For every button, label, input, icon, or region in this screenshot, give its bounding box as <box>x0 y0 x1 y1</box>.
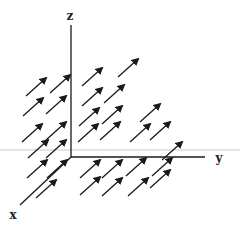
vector-arrow-icon <box>80 177 100 195</box>
vector-arrow-icon <box>26 78 46 96</box>
vector-arrow-icon <box>140 104 160 122</box>
vector-arrow-icon <box>118 59 138 77</box>
vector-arrow-icon <box>128 178 148 196</box>
x-axis-label: x <box>9 208 17 222</box>
vector-arrow-icon <box>22 124 42 142</box>
vector-arrow-icon <box>46 140 66 158</box>
vector-arrow-icon <box>46 96 66 114</box>
vector-arrow-icon <box>50 75 70 93</box>
vector-arrow-icon <box>102 178 122 196</box>
vector-arrow-icon <box>82 68 102 86</box>
vector-arrow-icon <box>27 160 47 178</box>
vector-arrow-icon <box>79 108 99 126</box>
z-axis-label: z <box>67 9 74 23</box>
vector-arrow-icon <box>126 158 146 176</box>
vector-arrow-icon <box>102 106 122 124</box>
vector-arrow-icon <box>104 85 124 103</box>
vector-arrow-icon <box>28 140 48 158</box>
vector-arrow-icon <box>150 122 170 140</box>
field-arrows <box>22 59 182 198</box>
vector-field-plot: z y x <box>0 0 240 232</box>
x-axis-line <box>20 157 71 205</box>
vector-arrow-icon <box>82 88 102 106</box>
vector-arrow-icon <box>78 124 98 142</box>
y-axis-label: y <box>215 151 224 165</box>
vector-arrow-icon <box>80 160 100 178</box>
vector-arrow-icon <box>150 170 170 188</box>
vector-arrow-icon <box>130 124 150 142</box>
vector-arrow-icon <box>47 160 67 178</box>
vector-arrow-icon <box>152 158 172 176</box>
vector-arrow-icon <box>23 98 43 116</box>
vector-arrow-icon <box>36 180 56 198</box>
vector-arrow-icon <box>102 160 122 178</box>
vector-arrow-icon <box>100 122 120 140</box>
vector-field-diagram: z y x <box>0 0 240 232</box>
vector-arrow-icon <box>46 122 66 140</box>
